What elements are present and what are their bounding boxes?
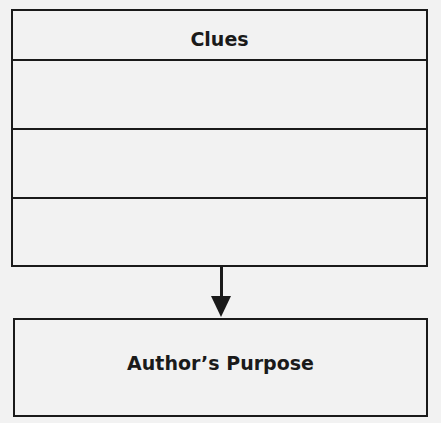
arrowhead-icon <box>211 296 231 317</box>
clues-box: Clues <box>11 9 428 267</box>
clue-row-3[interactable] <box>13 197 426 267</box>
authors-purpose-title: Author’s Purpose <box>127 352 314 374</box>
clues-title: Clues <box>190 22 248 50</box>
clue-row-1[interactable] <box>13 59 426 129</box>
authors-purpose-box[interactable]: Author’s Purpose <box>13 318 428 417</box>
arrow-down-icon <box>220 266 223 298</box>
clue-row-2[interactable] <box>13 128 426 198</box>
clues-header: Clues <box>13 11 426 61</box>
